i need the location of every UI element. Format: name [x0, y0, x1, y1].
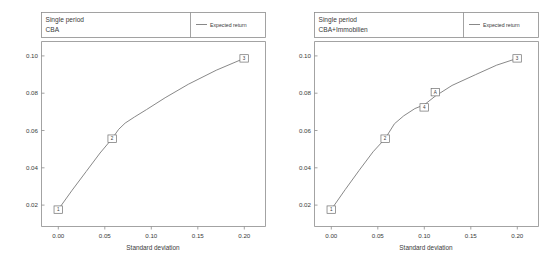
- labeled-point-markers: 123: [54, 55, 248, 214]
- panel-header-line2: CBA: [46, 26, 60, 33]
- y-tick-label: 0.06: [26, 127, 39, 134]
- plot-frame-left: [42, 42, 266, 227]
- x-tick-label: 0.00: [325, 232, 338, 239]
- chart-svg-left: Single period CBA Expected return 0.02 0…: [0, 0, 273, 260]
- y-tick-label: 0.10: [26, 52, 39, 59]
- x-ticks-right: 0.00 0.05 0.10 0.15 0.20: [325, 227, 524, 240]
- header-box-left: Single period CBA Expected return: [42, 13, 266, 38]
- chart-svg-right: Single period CBA+Immobilien Expected re…: [273, 0, 546, 260]
- x-axis-title: Standard deviation: [126, 244, 180, 251]
- y-tick-label: 0.08: [26, 89, 39, 96]
- x-tick-label: 0.15: [192, 232, 205, 239]
- panel-header-line2: CBA+Immobilien: [319, 26, 369, 33]
- y-tick-label: 0.02: [26, 201, 39, 208]
- x-ticks-left: 0.00 0.05 0.10 0.15 0.20: [52, 227, 251, 240]
- point-marker-label: 4: [423, 105, 426, 110]
- x-tick-label: 0.05: [372, 232, 385, 239]
- plot-frame-right: [315, 42, 539, 227]
- y-tick-label: 0.02: [299, 201, 312, 208]
- x-tick-label: 0.05: [99, 232, 112, 239]
- y-tick-label: 0.04: [26, 164, 39, 171]
- y-tick-label: 0.04: [299, 164, 312, 171]
- header-box-right: Single period CBA+Immobilien Expected re…: [315, 13, 539, 38]
- labeled-point-markers: 124A3: [327, 55, 521, 214]
- point-marker-label: 1: [330, 207, 333, 212]
- point-marker-label: 2: [384, 136, 387, 141]
- point-marker-label: 2: [111, 136, 114, 141]
- x-tick-label: 0.20: [238, 232, 251, 239]
- y-tick-label: 0.08: [299, 89, 312, 96]
- legend-label: Expected return: [210, 22, 247, 28]
- y-tick-label: 0.10: [299, 52, 312, 59]
- chart-panel-left: Single period CBA Expected return 0.02 0…: [0, 0, 273, 260]
- x-tick-label: 0.10: [145, 232, 158, 239]
- x-tick-label: 0.20: [511, 232, 524, 239]
- point-marker-label: 1: [57, 207, 60, 212]
- panel-header-line1: Single period: [319, 16, 358, 24]
- point-marker-label: 3: [243, 56, 246, 61]
- y-tick-label: 0.06: [299, 127, 312, 134]
- chart-panel-right: Single period CBA+Immobilien Expected re…: [273, 0, 546, 260]
- panel-header-line1: Single period: [46, 16, 85, 24]
- legend-label: Expected return: [483, 22, 520, 28]
- series-path: [58, 58, 244, 209]
- point-marker-label: 3: [516, 56, 519, 61]
- series-path: [331, 58, 517, 209]
- figure-container: Single period CBA Expected return 0.02 0…: [0, 0, 546, 260]
- x-tick-label: 0.15: [465, 232, 478, 239]
- x-tick-label: 0.10: [418, 232, 431, 239]
- x-tick-label: 0.00: [52, 232, 65, 239]
- x-axis-title: Standard deviation: [399, 244, 453, 251]
